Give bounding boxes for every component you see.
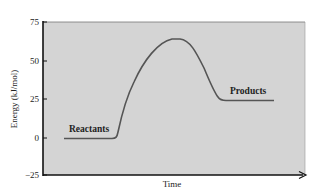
plot-area	[43, 22, 305, 175]
y-tick-50: 50	[30, 56, 40, 66]
y-tick-0: 0	[35, 133, 40, 143]
x-axis-title: Time	[163, 179, 182, 189]
products-label: Products	[230, 86, 267, 96]
energy-profile-chart: 75 50 25 0 −25 Energy (kJ/mol) Time Reac…	[0, 0, 315, 192]
y-tick-75: 75	[30, 17, 40, 27]
reactants-label: Reactants	[69, 124, 109, 134]
y-tick-labels: 75 50 25 0 −25	[25, 17, 40, 180]
y-tick-25: 25	[30, 94, 40, 104]
y-axis-title: Energy (kJ/mol)	[9, 70, 19, 129]
y-tick-neg25: −25	[25, 170, 40, 180]
